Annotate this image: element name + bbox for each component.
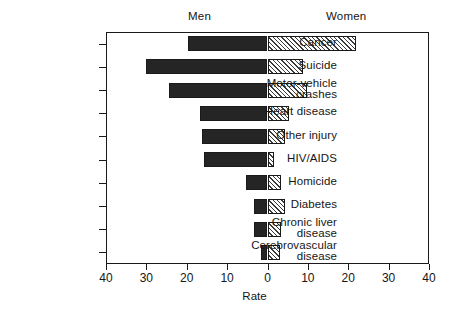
category-label: Cerebrovascular disease bbox=[251, 240, 337, 263]
x-axis-tick-label: 30 bbox=[131, 271, 161, 285]
x-axis-tick-label: 20 bbox=[172, 271, 202, 285]
x-axis-title: Rate bbox=[0, 290, 449, 302]
x-axis-tick-label: 20 bbox=[333, 271, 363, 285]
legend-label-women: Women bbox=[326, 10, 366, 22]
x-axis-tick bbox=[106, 264, 107, 270]
category-tick bbox=[99, 252, 106, 253]
x-axis-tick-label: 0 bbox=[253, 271, 283, 285]
category-label: Other injury bbox=[276, 130, 337, 142]
category-label: Chronic liver disease bbox=[272, 217, 337, 240]
category-tick bbox=[99, 113, 106, 114]
x-axis-tick bbox=[146, 264, 147, 270]
category-label: Motor-vehicle crashes bbox=[267, 78, 337, 101]
x-axis-tick bbox=[308, 264, 309, 270]
category-label: Suicide bbox=[299, 60, 337, 72]
plot-frame bbox=[106, 32, 429, 264]
category-tick bbox=[99, 136, 106, 137]
x-axis-tick-label: 40 bbox=[414, 271, 444, 285]
x-axis-tick bbox=[348, 264, 349, 270]
x-axis-tick bbox=[268, 264, 269, 270]
x-axis-tick-label: 10 bbox=[293, 271, 323, 285]
x-axis-tick bbox=[429, 264, 430, 270]
x-axis-tick bbox=[227, 264, 228, 270]
chart-container: Men Women CancerSuicideMotor-vehicle cra… bbox=[0, 0, 449, 310]
x-axis-tick bbox=[389, 264, 390, 270]
category-tick bbox=[99, 206, 106, 207]
category-label: Diabetes bbox=[291, 199, 337, 211]
x-axis-tick bbox=[187, 264, 188, 270]
category-tick bbox=[99, 44, 106, 45]
category-label: Homicide bbox=[288, 176, 337, 188]
x-axis-tick-label: 30 bbox=[374, 271, 404, 285]
category-label: HIV/AIDS bbox=[287, 153, 337, 165]
category-tick bbox=[99, 90, 106, 91]
x-axis-tick-label: 10 bbox=[212, 271, 242, 285]
category-tick bbox=[99, 183, 106, 184]
category-label: Cancer bbox=[299, 37, 337, 49]
category-tick bbox=[99, 229, 106, 230]
category-tick bbox=[99, 67, 106, 68]
category-label: Heart disease bbox=[265, 106, 337, 118]
x-axis-title-text: Rate bbox=[242, 290, 266, 302]
category-tick bbox=[99, 160, 106, 161]
x-axis-tick-label: 40 bbox=[91, 271, 121, 285]
legend-label-men: Men bbox=[188, 10, 211, 22]
